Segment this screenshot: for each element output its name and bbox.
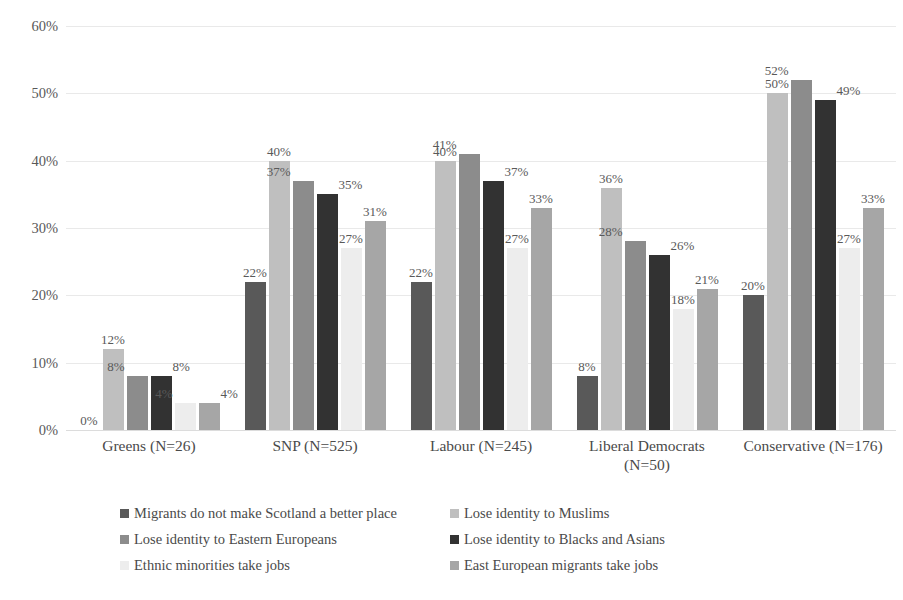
bar-value-label: 4%: [155, 387, 174, 400]
legend-item[interactable]: East European migrants take jobs: [450, 557, 800, 574]
legend-swatch: [450, 509, 459, 518]
category-label-line: Greens (N=26): [102, 437, 196, 454]
bar-value-label: 27%: [837, 232, 861, 245]
x-axis-category-label: Greens (N=26): [66, 436, 232, 455]
chart-legend: Migrants do not make Scotland a better p…: [120, 500, 800, 578]
bar-value-label: 0%: [80, 414, 97, 427]
x-axis-category-label: Conservative (N=176): [730, 436, 896, 455]
y-axis-tick-label: 30%: [14, 221, 58, 236]
x-axis-category-label: SNP (N=525): [232, 436, 398, 455]
legend-label: Lose identity to Blacks and Asians: [464, 531, 665, 548]
bar-slot: 8%: [577, 26, 598, 430]
bar[interactable]: [697, 289, 718, 430]
bar-group: 22%40%37%35%27%31%: [245, 26, 386, 430]
bar-value-label: 22%: [409, 266, 433, 279]
bar-slot: 21%: [697, 26, 718, 430]
bar[interactable]: [743, 295, 764, 430]
x-axis-category-label: Labour (N=245): [398, 436, 564, 455]
bar-group: 0%12%8%8%4%4%: [79, 26, 220, 430]
bar[interactable]: [411, 282, 432, 430]
gridline: [66, 430, 896, 431]
legend-swatch: [450, 561, 459, 570]
bar[interactable]: [577, 376, 598, 430]
bar[interactable]: [673, 309, 694, 430]
bar-value-label: 18%: [671, 293, 695, 306]
bar[interactable]: [625, 241, 646, 430]
bar-value-label: 8%: [578, 360, 595, 373]
legend-label: Ethnic minorities take jobs: [134, 557, 290, 574]
bar-slot: 22%: [245, 26, 266, 430]
bar-slot: 33%: [863, 26, 884, 430]
bar[interactable]: [151, 376, 172, 430]
bar-slot: 37%: [293, 26, 314, 430]
bar-value-label: 40%: [267, 145, 291, 158]
y-axis-tick-labels: 0%10%20%30%40%50%60%: [12, 0, 58, 490]
bar[interactable]: [199, 403, 220, 430]
legend-swatch: [120, 509, 129, 518]
plot-area: 0%10%20%30%40%50%60% 0%12%8%8%4%4%22%40%…: [0, 0, 903, 490]
bars-container: 0%12%8%8%4%4%22%40%37%35%27%31%22%40%41%…: [66, 26, 896, 430]
y-axis-tick-label: 20%: [14, 288, 58, 303]
bar[interactable]: [791, 80, 812, 430]
bar[interactable]: [863, 208, 884, 430]
legend-item[interactable]: Lose identity to Eastern Europeans: [120, 531, 450, 548]
legend-swatch: [120, 535, 129, 544]
bar[interactable]: [127, 376, 148, 430]
bar-slot: 27%: [507, 26, 528, 430]
bar[interactable]: [245, 282, 266, 430]
bar-value-label: 8%: [107, 360, 126, 373]
bar-slot: 4%: [199, 26, 220, 430]
legend-item[interactable]: Lose identity to Muslims: [450, 505, 800, 522]
bar-slot: 8%: [127, 26, 148, 430]
y-axis-tick-label: 0%: [14, 423, 58, 438]
legend-item[interactable]: Migrants do not make Scotland a better p…: [120, 505, 450, 522]
legend-item[interactable]: Lose identity to Blacks and Asians: [450, 531, 800, 548]
bar[interactable]: [317, 194, 338, 430]
x-axis-category-label: Liberal Democrats(N=50): [564, 436, 730, 475]
bar-slot: 22%: [411, 26, 432, 430]
bar[interactable]: [483, 181, 504, 430]
bar-value-label: 27%: [505, 232, 529, 245]
bar[interactable]: [269, 161, 290, 430]
bar-slot: 41%: [459, 26, 480, 430]
bar[interactable]: [293, 181, 314, 430]
bar-slot: 35%: [317, 26, 338, 430]
bar-slot: 20%: [743, 26, 764, 430]
bar-value-label: 31%: [363, 205, 387, 218]
y-axis-tick-label: 10%: [14, 355, 58, 370]
bar-value-label: 50%: [765, 77, 789, 90]
bar[interactable]: [649, 255, 670, 430]
bar[interactable]: [767, 93, 788, 430]
legend-label: Lose identity to Muslims: [464, 505, 609, 522]
bar[interactable]: [435, 161, 456, 430]
bar-value-label: 4%: [220, 387, 238, 400]
bar[interactable]: [341, 248, 362, 430]
bar[interactable]: [507, 248, 528, 430]
legend-item[interactable]: Ethnic minorities take jobs: [120, 557, 450, 574]
bar-group-bars: 0%12%8%8%4%4%: [79, 26, 220, 430]
category-label-line: SNP (N=525): [272, 437, 357, 454]
bar-slot: 33%: [531, 26, 552, 430]
bar-slot: 31%: [365, 26, 386, 430]
bar-value-label: 52%: [765, 64, 791, 77]
bar[interactable]: [839, 248, 860, 430]
bar[interactable]: [815, 100, 836, 430]
bar-slot: 28%: [625, 26, 646, 430]
bar-group: 20%50%52%49%27%33%: [743, 26, 884, 430]
grouped-bar-chart: 0%10%20%30%40%50%60% 0%12%8%8%4%4%22%40%…: [0, 0, 903, 600]
bar-value-label: 37%: [267, 165, 293, 178]
bar-group: 8%36%28%26%18%21%: [577, 26, 718, 430]
bar-slot: 40%: [269, 26, 290, 430]
bar-slot: 8%: [151, 26, 172, 430]
legend-swatch: [450, 535, 459, 544]
bar[interactable]: [365, 221, 386, 430]
bar-value-label: 28%: [599, 225, 625, 238]
category-label-line: Liberal Democrats: [589, 437, 705, 454]
bar[interactable]: [175, 403, 196, 430]
bar[interactable]: [459, 154, 480, 430]
bar-value-label: 33%: [529, 192, 553, 205]
legend-swatch: [120, 561, 129, 570]
legend-label: East European migrants take jobs: [464, 557, 658, 574]
bar[interactable]: [531, 208, 552, 430]
y-axis-tick-label: 60%: [14, 19, 58, 34]
